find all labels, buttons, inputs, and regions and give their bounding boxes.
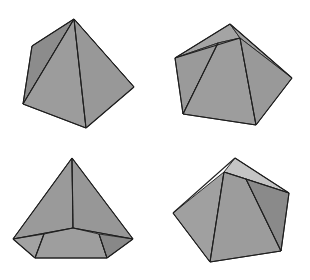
pentagonal-pyramid-view-2: Pentagonal pyramid, apex toward viewer <box>175 24 292 125</box>
pentagonal-pyramid-view-3: Pentagonal pyramid, front view with visi… <box>13 158 133 258</box>
square-pyramid-view-1: Square pyramid, oblique view <box>23 19 134 128</box>
pyramid-views-canvas: Square pyramid, oblique viewPentagonal p… <box>0 0 310 280</box>
pentagonal-pyramid-view-4: Pentagonal pyramid, rotated view <box>173 158 289 262</box>
pyramid-diagram: Square pyramid, oblique viewPentagonal p… <box>0 0 310 280</box>
